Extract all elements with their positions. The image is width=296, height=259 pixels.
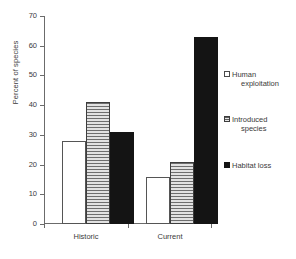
legend-item-introduced-species: Introduced species [224, 115, 296, 133]
filled-square-icon [224, 162, 230, 168]
x-category-label-current: Current [146, 232, 194, 241]
legend-label-human-exploitation: Human exploitation [232, 70, 279, 88]
y-tick-label-40: 40 [29, 100, 37, 109]
bar-current-human-exploitation [146, 177, 170, 225]
legend-label-line1: Habitat loss [232, 161, 271, 170]
legend-label-line1: Human [232, 70, 256, 79]
y-tick-label-20: 20 [29, 160, 37, 169]
legend-label-habitat-loss: Habitat loss [232, 161, 271, 170]
y-tick-30: 30 [40, 135, 44, 136]
bar-historic-habitat-loss [110, 132, 134, 224]
y-axis-title: Percent of species [11, 18, 20, 128]
y-tick-label-70: 70 [29, 11, 37, 20]
open-square-icon [224, 71, 230, 77]
y-tick-label-0: 0 [33, 219, 37, 228]
x-tick-start [44, 224, 45, 228]
y-tick-label-30: 30 [29, 130, 37, 139]
bar-current-habitat-loss [194, 37, 218, 224]
legend-item-habitat-loss: Habitat loss [224, 161, 296, 170]
y-tick-10: 10 [40, 194, 44, 195]
legend-label-introduced-species: Introduced species [232, 115, 267, 133]
hatched-square-icon [224, 116, 230, 122]
bar-chart-figure: Percent of species 70 60 50 40 30 20 10 … [0, 0, 296, 259]
y-axis-line [44, 16, 45, 224]
y-tick-70: 70 [40, 16, 44, 17]
x-category-label-historic: Historic [62, 232, 110, 241]
y-tick-60: 60 [40, 46, 44, 47]
y-tick-label-60: 60 [29, 41, 37, 50]
bar-historic-human-exploitation [62, 141, 86, 224]
y-tick-label-10: 10 [29, 189, 37, 198]
bar-current-introduced-species [170, 162, 194, 224]
y-tick-label-50: 50 [29, 70, 37, 79]
bar-historic-introduced-species [86, 102, 110, 224]
y-tick-40: 40 [40, 105, 44, 106]
x-tick-mid [128, 224, 129, 228]
legend-label-line1: Introduced [232, 115, 267, 124]
x-tick-end [211, 224, 212, 228]
y-tick-50: 50 [40, 75, 44, 76]
plot-area: 70 60 50 40 30 20 10 0 [44, 16, 212, 224]
legend-label-line2: exploitation [232, 79, 279, 88]
legend-item-human-exploitation: Human exploitation [224, 70, 296, 88]
legend-label-line2: species [232, 124, 267, 133]
y-tick-20: 20 [40, 165, 44, 166]
